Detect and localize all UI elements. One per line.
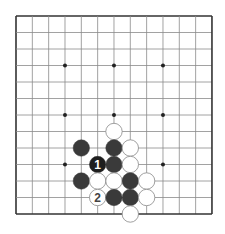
white-stone [106,173,122,189]
star-point [112,113,116,117]
move-number-label: 1 [94,158,101,172]
stone-disc [138,173,154,189]
star-point [161,113,165,117]
star-point [63,113,67,117]
stone-disc [73,173,89,189]
stone-disc [106,173,122,189]
stone-disc [89,173,105,189]
white-stone [89,173,105,189]
star-point [161,64,165,68]
black-stone [122,189,138,205]
white-stone [122,140,138,156]
stone-disc [73,140,89,156]
black-stone [122,173,138,189]
stone-disc [122,173,138,189]
stone-disc [122,156,138,172]
black-stone [106,140,122,156]
black-stone: 1 [89,156,105,172]
white-stone [106,123,122,139]
move-number-label: 2 [94,191,101,205]
black-stone [106,189,122,205]
stone-disc [106,123,122,139]
stone-disc [106,156,122,172]
stone-disc [106,140,122,156]
black-stone [106,156,122,172]
stone-disc [106,189,122,205]
stone-disc [122,189,138,205]
go-board: 12 [0,0,225,234]
white-stone [122,206,138,222]
star-point [112,64,116,68]
star-point [161,163,165,167]
black-stone [73,173,89,189]
stone-disc [122,206,138,222]
white-stone [138,173,154,189]
stone-disc [138,189,154,205]
white-stone [138,189,154,205]
black-stone [73,140,89,156]
star-point [63,64,67,68]
white-stone [122,156,138,172]
stone-disc [122,140,138,156]
star-point [63,163,67,167]
white-stone: 2 [89,189,105,205]
